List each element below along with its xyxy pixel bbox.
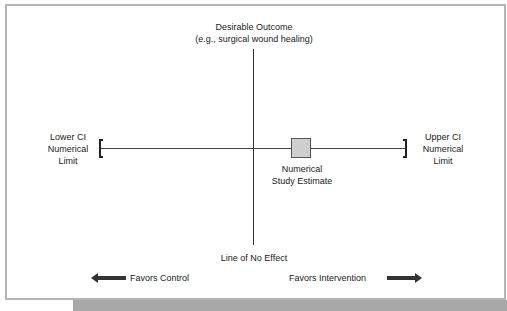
upper-ci-line2: Numerical [413,143,473,155]
lower-ci-line3: Limit [38,155,98,167]
upper-ci-line3: Limit [413,155,473,167]
upper-ci-label: Upper CI Numerical Limit [413,131,473,167]
figure-caption-bar [0,300,507,311]
study-estimate-line1: Numerical [262,163,342,175]
favors-intervention-label: Favors Intervention [289,272,366,284]
desirable-outcome-example: (e.g., surgical wound healing) [183,33,325,45]
upper-ci-bracket-icon [403,139,407,158]
lower-ci-line2: Numerical [38,143,98,155]
favors-control-label: Favors Control [130,272,189,284]
desirable-outcome-title: Desirable Outcome [183,21,325,33]
desirable-outcome-label: Desirable Outcome (e.g., surgical wound … [183,21,325,45]
lower-ci-bracket-icon [99,139,103,158]
line-of-no-effect [253,49,254,245]
arrow-left-icon [97,276,126,280]
study-estimate-square [291,138,311,158]
lower-ci-label: Lower CI Numerical Limit [38,131,98,167]
study-estimate-line2: Study Estimate [262,175,342,187]
study-estimate-label: Numerical Study Estimate [262,163,342,187]
confidence-interval-line [101,148,407,149]
arrow-right-icon [387,276,416,280]
figure-caption-label [0,300,73,311]
line-of-no-effect-label: Line of No Effect [204,252,304,264]
upper-ci-line1: Upper CI [413,131,473,143]
lower-ci-line1: Lower CI [38,131,98,143]
